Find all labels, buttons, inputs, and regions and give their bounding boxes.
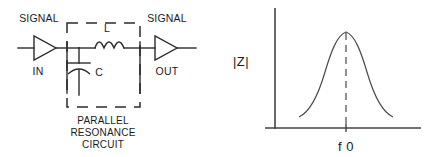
resonance-figure: C L SIGNAL IN SIGNAL OUT PARALLEL RESONA… — [0, 0, 426, 157]
in-label: IN — [33, 65, 44, 77]
capacitor-label: C — [95, 66, 103, 78]
box-caption-line-2: RESONANCE — [70, 127, 135, 138]
out-label: OUT — [156, 65, 179, 77]
x-axis-label: f 0 — [338, 139, 354, 154]
box-caption-line-1: PARALLEL — [77, 115, 129, 126]
output-amplifier-triangle — [155, 36, 177, 60]
parallel-resonance-dashed-box — [67, 23, 140, 107]
inductor-label: L — [104, 22, 110, 34]
input-amplifier-triangle — [34, 36, 56, 60]
inductor-coil — [95, 42, 124, 48]
impedance-response-plot-panel: |Z| f 0 — [213, 0, 426, 157]
signal-out-label: SIGNAL — [147, 12, 187, 24]
y-axis-label: |Z| — [233, 54, 249, 69]
box-caption-line-3: CIRCUIT — [82, 139, 124, 150]
signal-in-label: SIGNAL — [19, 12, 59, 24]
circuit-diagram-panel: C L SIGNAL IN SIGNAL OUT PARALLEL RESONA… — [0, 0, 213, 157]
